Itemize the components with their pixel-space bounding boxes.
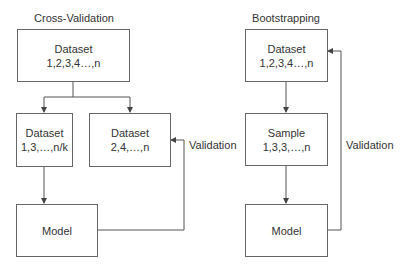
cv-dataset-validation-label: Dataset [111,126,149,140]
cv-dataset-validation-range: 2,4,…,n [111,140,150,154]
bs-dataset-range: 1,2,3,4…,n [260,56,314,70]
cv-dataset-train-label: Dataset [26,126,64,140]
cv-model: Model [16,204,98,257]
cv-dataset-full: Dataset 1,2,3,4…,n [17,29,130,82]
bs-sample: Sample 1,3,3,…,n [245,113,328,166]
cv-model-label: Model [42,224,72,238]
cv-dataset-full-range: 1,2,3,4…,n [47,56,101,70]
bs-sample-range: 1,3,3,…,n [263,140,311,154]
bs-dataset-label: Dataset [268,42,306,56]
bs-title: Bootstrapping [245,12,327,25]
bs-sample-label: Sample [268,126,305,140]
bs-model: Model [245,204,328,257]
bs-dataset: Dataset 1,2,3,4…,n [245,29,328,82]
bs-model-label: Model [272,224,302,238]
bs-validation-loop [327,51,341,230]
cv-dataset-validation: Dataset 2,4,…,n [89,113,171,167]
cv-dataset-train: Dataset 1,3,…,n/k [16,113,73,167]
cv-dataset-full-label: Dataset [55,42,93,56]
cv-dataset-train-range: 1,3,…,n/k [21,140,68,154]
cv-title: Cross-Validation [18,12,130,25]
bs-validation-label: Validation [346,139,394,152]
cv-validation-label: Validation [189,139,237,152]
